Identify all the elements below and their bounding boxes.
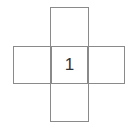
square-top — [50, 7, 89, 47]
square-left — [13, 46, 52, 84]
square-right — [87, 46, 125, 84]
center-number-label: 1 — [51, 46, 88, 83]
square-bottom — [50, 83, 89, 122]
